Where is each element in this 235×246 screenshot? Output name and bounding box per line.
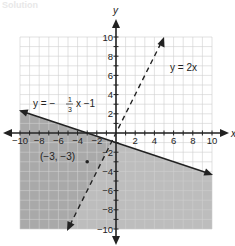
- x-axis-right-arrow-icon: [220, 129, 229, 137]
- coordinate-graph: y x −10−8−6−4−2246810 108642−2−4−6−8−10 …: [0, 0, 235, 246]
- y-tick-label: 10: [102, 32, 113, 43]
- y-axis-up-arrow-icon: [112, 19, 120, 28]
- line1-frac-den: 3: [68, 106, 72, 113]
- x-tick-label: −10: [12, 135, 28, 146]
- x-tick-label: −8: [34, 135, 45, 146]
- x-tick-label: 8: [190, 135, 195, 146]
- y-tick-label: 2: [108, 108, 113, 119]
- x-tick-label: −6: [53, 135, 64, 146]
- x-axis-label: x: [230, 128, 235, 139]
- line1-frac-num: 1: [68, 96, 72, 103]
- y-axis-down-arrow-icon: [112, 236, 120, 245]
- x-tick-label: 10: [207, 135, 218, 146]
- x-tick-label: −4: [72, 135, 83, 146]
- x-tick-label: 6: [171, 135, 176, 146]
- x-tick-label: 2: [133, 135, 138, 146]
- line2-label: y = 2x: [170, 62, 197, 73]
- point-label: (−3, −3): [40, 151, 75, 162]
- x-tick-label: 4: [152, 135, 157, 146]
- y-tick-label: 6: [108, 70, 113, 81]
- y-tick-label: −10: [97, 224, 113, 235]
- line2-label-text: y = 2x: [170, 62, 197, 73]
- point-marker: [85, 160, 89, 164]
- line2-up-arrow-icon: [158, 37, 165, 48]
- y-tick-label: 4: [108, 89, 113, 100]
- y-tick-label: −8: [102, 204, 113, 215]
- y-axis-label: y: [112, 5, 119, 16]
- line1-label: y = − 1 3 x −1: [30, 93, 104, 113]
- y-tick-label: −4: [102, 166, 113, 177]
- x-axis-left-arrow-icon: [3, 129, 12, 137]
- line1-label-rhs: x −1: [76, 98, 96, 109]
- y-tick-label: −6: [102, 185, 113, 196]
- line1-label-lhs: y = −: [33, 98, 55, 109]
- y-tick-label: 8: [108, 51, 113, 62]
- line1-right-arrow-icon: [204, 169, 214, 176]
